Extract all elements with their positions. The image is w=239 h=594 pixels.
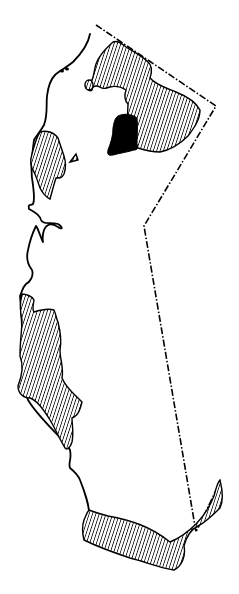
northeast-hatched-nub [85, 80, 93, 90]
southern-hatched-area [83, 480, 223, 570]
coastal-island [60, 70, 64, 73]
northwest-coastal-hatched-area [31, 131, 66, 199]
small-hatched-island [70, 154, 78, 162]
map-container [0, 0, 239, 594]
coastal-island [65, 68, 69, 71]
map-canvas [0, 0, 239, 594]
north-solid-area [108, 114, 138, 155]
coastline [20, 34, 90, 512]
northeast-hatched-area [85, 41, 200, 152]
